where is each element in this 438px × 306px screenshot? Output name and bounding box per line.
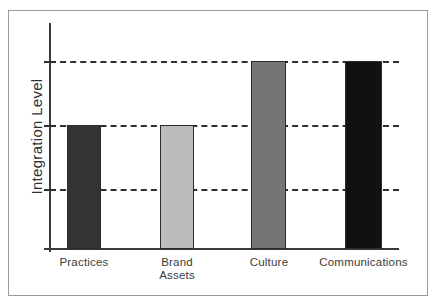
y-axis-line [49, 23, 51, 252]
bar-communications[interactable] [345, 61, 382, 249]
bar-chart-figure: Practices Brand Assets Culture Communica… [0, 0, 438, 306]
plot-area: Practices Brand Assets Culture Communica… [0, 0, 438, 306]
y-axis-title: Integration Level [28, 37, 45, 237]
x-label-communications: Communications [311, 256, 416, 269]
bar-brand-assets[interactable] [160, 125, 194, 249]
bar-practices[interactable] [67, 125, 101, 249]
x-label-brand-assets: Brand Assets [132, 256, 222, 282]
x-label-culture: Culture [224, 256, 314, 269]
bar-culture[interactable] [251, 61, 286, 249]
x-label-practices: Practices [39, 256, 129, 269]
